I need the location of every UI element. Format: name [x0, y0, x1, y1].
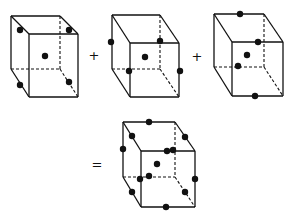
lattice-point	[108, 39, 114, 45]
lattice-point	[255, 39, 261, 45]
lattice-point	[182, 189, 188, 195]
lattice-point	[66, 79, 72, 85]
edge	[112, 15, 130, 43]
lattice-point	[252, 93, 258, 99]
lattice-point	[66, 27, 72, 33]
lattice-point	[142, 54, 148, 60]
edge	[214, 14, 232, 42]
hidden-edge	[160, 69, 179, 97]
lattice-point	[157, 38, 163, 44]
lattice-point	[164, 148, 170, 154]
lattice-point	[146, 173, 152, 179]
hidden-edge	[264, 67, 283, 96]
lattice-point	[154, 161, 160, 167]
plus-sign: +	[89, 48, 100, 63]
edge	[214, 67, 232, 96]
lattice-point	[137, 176, 143, 182]
lattice-point	[237, 11, 243, 17]
cube-result	[120, 119, 198, 210]
lattice-point	[192, 176, 198, 182]
lattice-point	[129, 189, 135, 195]
cube-3	[214, 11, 283, 99]
cube-2	[108, 15, 183, 97]
edge	[264, 14, 283, 42]
lattice-point	[17, 27, 23, 33]
lattice-point	[126, 68, 132, 74]
lattice-point	[182, 134, 188, 140]
lattice-point	[177, 68, 183, 74]
lattice-point	[235, 63, 241, 69]
lattice-point	[42, 53, 48, 59]
lattice-point	[129, 133, 135, 139]
equals-sign: =	[92, 157, 103, 172]
lattice-point	[17, 82, 23, 88]
cube-diagram: ++=	[0, 0, 292, 213]
lattice-point	[146, 119, 152, 125]
lattice-point	[244, 52, 250, 58]
lattice-point	[120, 146, 126, 152]
lattice-point	[170, 147, 176, 153]
edge	[160, 15, 179, 43]
lattice-point	[163, 204, 169, 210]
cube-1	[11, 16, 78, 97]
plus-sign: +	[192, 49, 203, 64]
